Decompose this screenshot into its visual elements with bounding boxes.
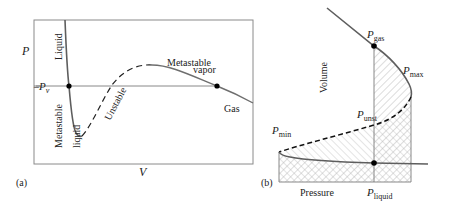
unstable-label: Unstable [102, 85, 129, 122]
liquid-label: Liquid [53, 33, 64, 60]
figure: P –Pv Liquid Metastable liquid Unstable … [0, 0, 450, 210]
panel-a: P –Pv Liquid Metastable liquid Unstable … [16, 20, 253, 189]
panel-a-label: (a) [16, 177, 27, 189]
metastable-liquid-label-1: Metastable [53, 104, 64, 148]
gas-label: Gas [224, 103, 240, 114]
panel-a-x-axis-label: V [139, 165, 148, 179]
liquid-curve [65, 20, 82, 136]
p-liquid-point [371, 160, 377, 166]
metastable-liquid-label-2: liquid [71, 125, 82, 148]
vapor-coexistence-point [214, 83, 219, 88]
pressure-axis-label: Pressure [300, 187, 334, 198]
p-min-label: Pmin [271, 124, 291, 139]
panel-b-label: (b) [261, 177, 273, 189]
volume-axis-label: Volume [318, 62, 329, 93]
metastable-vapor-label-2: vapor [193, 64, 216, 75]
p-liquid-label: Pliquid [366, 186, 392, 201]
panel-b: Pgas Pmax Punst Pmin Pliquid Volume Pres… [261, 8, 428, 201]
pv-label: –Pv [33, 80, 50, 95]
panel-a-frame [34, 20, 253, 164]
panel-a-y-axis-label: P [21, 44, 30, 58]
p-gas-point [371, 43, 377, 49]
liquid-coexistence-point [66, 83, 71, 88]
